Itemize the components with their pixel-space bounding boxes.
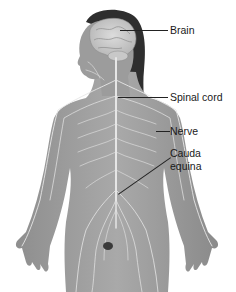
label-cauda-equina-line1: Cauda (170, 147, 201, 159)
brain-leader-line (120, 30, 168, 31)
spinal-cord-leader-line (118, 97, 168, 98)
nervous-system-diagram: Brain Spinal cord Nerve Cauda equina (0, 0, 236, 292)
label-brain: Brain (170, 24, 195, 36)
brain (90, 18, 136, 56)
label-nerve: Nerve (170, 125, 198, 137)
nerve-leader-line (156, 131, 170, 132)
label-spinal-cord: Spinal cord (170, 91, 223, 103)
body-illustration (0, 0, 236, 292)
label-cauda-equina-line2: equina (170, 160, 202, 172)
